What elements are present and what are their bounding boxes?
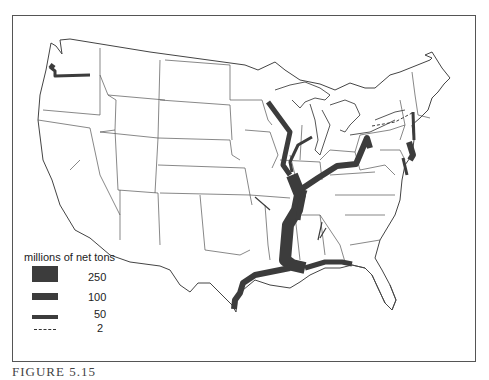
flow-delaware-river [409, 142, 413, 160]
flow-columbia-river [50, 67, 90, 76]
legend-item-50: 50 [24, 308, 164, 322]
legend-item-2: 2 [24, 322, 164, 336]
great-lakes [275, 82, 405, 155]
legend-title: millions of net tons [24, 251, 164, 263]
legend: millions of net tons 250 100 50 2 [24, 251, 164, 336]
figure-caption: FIGURE 5.15 [12, 364, 96, 380]
legend-swatch-thin [32, 315, 58, 319]
flow-gulf-intracoastal-west [234, 268, 290, 309]
flow-illinois-waterway [290, 137, 312, 172]
state-borders [38, 48, 430, 262]
legend-item-100: 100 [24, 288, 164, 308]
flow-hudson-river [413, 112, 414, 140]
flow-lower-mississippi [285, 175, 305, 268]
flow-ny-barge-canal [372, 113, 412, 126]
flow-upper-mississippi [268, 102, 290, 175]
legend-swatch-medium [32, 293, 58, 300]
legend-swatch-dashed [34, 329, 56, 330]
flow-ohio-river [300, 138, 370, 190]
florida [352, 265, 396, 310]
legend-swatch-thick [32, 266, 58, 282]
legend-item-250: 250 [24, 266, 164, 288]
